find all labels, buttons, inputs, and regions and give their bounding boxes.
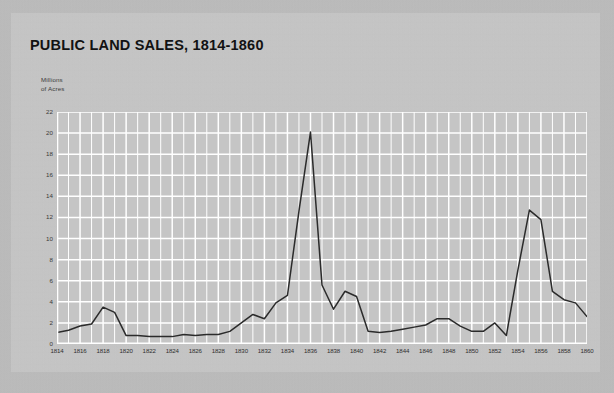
y-tick-label-6: 6 (50, 278, 53, 284)
x-tick-label-1860: 1860 (580, 347, 593, 354)
x-tick-label-1832: 1832 (258, 347, 271, 354)
y-tick-label-2: 2 (50, 320, 53, 326)
x-tick-label-1840: 1840 (350, 347, 363, 354)
y-tick-label-4: 4 (50, 299, 53, 305)
x-tick-label-1826: 1826 (189, 347, 202, 354)
x-tick-label-1836: 1836 (304, 347, 317, 354)
y-tick-label-10: 10 (46, 236, 53, 242)
y-axis-tick-labels: 0246810121416182022 (25, 112, 53, 344)
x-tick-label-1818: 1818 (97, 347, 110, 354)
x-tick-label-1820: 1820 (120, 347, 133, 354)
x-tick-label-1838: 1838 (327, 347, 340, 354)
x-tick-label-1834: 1834 (281, 347, 294, 354)
x-axis-tick-labels: 1814181618181820182218241826182818301832… (57, 347, 587, 359)
x-tick-label-1844: 1844 (396, 347, 409, 354)
y-tick-label-12: 12 (46, 214, 53, 220)
x-tick-label-1850: 1850 (465, 347, 478, 354)
x-tick-label-1822: 1822 (143, 347, 156, 354)
y-tick-label-8: 8 (50, 257, 53, 263)
x-tick-label-1846: 1846 (419, 347, 432, 354)
x-tick-label-1816: 1816 (73, 347, 86, 354)
y-axis-caption: Millions of Acres (41, 75, 65, 93)
y-tick-label-20: 20 (46, 130, 53, 136)
x-tick-label-1858: 1858 (557, 347, 570, 354)
x-tick-label-1814: 1814 (50, 347, 63, 354)
x-tick-label-1854: 1854 (511, 347, 524, 354)
y-tick-label-14: 14 (46, 193, 53, 199)
page-title: PUBLIC LAND SALES, 1814-1860 (30, 37, 264, 53)
y-tick-label-16: 16 (46, 172, 53, 178)
x-tick-label-1824: 1824 (166, 347, 179, 354)
plot-area (57, 112, 587, 344)
x-tick-label-1852: 1852 (488, 347, 501, 354)
x-tick-label-1848: 1848 (442, 347, 455, 354)
y-tick-label-18: 18 (46, 151, 53, 157)
x-tick-label-1856: 1856 (534, 347, 547, 354)
line-chart-svg (57, 112, 587, 344)
y-tick-label-22: 22 (46, 109, 53, 115)
x-tick-label-1830: 1830 (235, 347, 248, 354)
x-tick-label-1828: 1828 (212, 347, 225, 354)
x-tick-label-1842: 1842 (373, 347, 386, 354)
chart-card: PUBLIC LAND SALES, 1814-1860 Millions of… (11, 13, 600, 372)
